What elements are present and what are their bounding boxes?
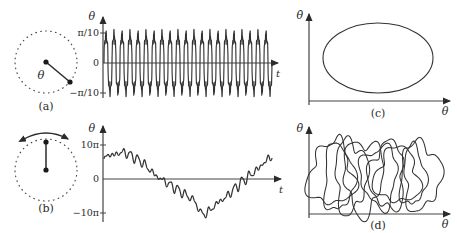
panel-c-caption: (c) — [371, 107, 386, 120]
panel-b-swing-arrow-icon — [24, 133, 68, 139]
panel-d-caption: (d) — [370, 219, 386, 232]
chaotic-y-axis-label: θ — [88, 122, 95, 135]
chart-theta-vs-time-chaotic: θ 10π 0 −10π t — [73, 122, 284, 222]
attractor-loop — [343, 141, 384, 222]
attractor-loop — [305, 143, 359, 205]
panel-a-group: θ (a) — [15, 31, 77, 113]
panel-b-pivot-dot — [43, 167, 48, 172]
periodic-x-axis-label: t — [276, 68, 281, 79]
chaotic-ytick-label-3: −10π — [73, 207, 99, 218]
panel-c-phase-portrait-periodic: θ̇ θ (c) — [296, 9, 450, 120]
periodic-ytick-label-3: −π/10 — [70, 87, 100, 98]
attractor-loop — [404, 137, 444, 211]
panel-a-caption: (a) — [38, 100, 53, 113]
panel-c-y-axis-label: θ̇ — [296, 9, 303, 22]
panel-a-bob-dot — [67, 79, 72, 84]
panel-d-strange-attractor — [305, 134, 444, 221]
figure-canvas: θ (a) (b) θ π/10 0 −π/10 t θ — [0, 0, 457, 233]
periodic-ytick-label-2: 0 — [93, 57, 99, 68]
panel-d-phase-portrait-chaotic: θ̇ θ (d) — [296, 122, 450, 232]
panel-c-limit-cycle-orbit — [323, 23, 433, 93]
pendulum-dynamics-figure: θ (a) (b) θ π/10 0 −π/10 t θ — [0, 0, 457, 233]
chaotic-waveform-curve — [104, 149, 272, 218]
chaotic-x-axis-label: t — [279, 184, 284, 195]
panel-a-pivot-dot — [43, 59, 48, 64]
panel-d-x-axis-label: θ — [442, 218, 449, 231]
panel-b-bob-dot — [43, 139, 48, 144]
chart-theta-vs-time-periodic: θ π/10 0 −π/10 t — [70, 10, 281, 98]
panel-b-group: (b) — [15, 133, 77, 215]
panel-a-pendulum-rod — [46, 62, 70, 82]
panel-b-caption: (b) — [38, 202, 54, 215]
chaotic-ytick-label-1: 10π — [81, 139, 99, 150]
periodic-ytick-label-1: π/10 — [77, 27, 99, 38]
chaotic-ytick-label-2: 0 — [93, 173, 99, 184]
panel-d-y-axis-label: θ̇ — [296, 122, 303, 135]
panel-c-x-axis-label: θ — [442, 105, 449, 118]
panel-a-angle-label: θ — [38, 68, 45, 82]
periodic-y-axis-label: θ — [88, 10, 95, 23]
